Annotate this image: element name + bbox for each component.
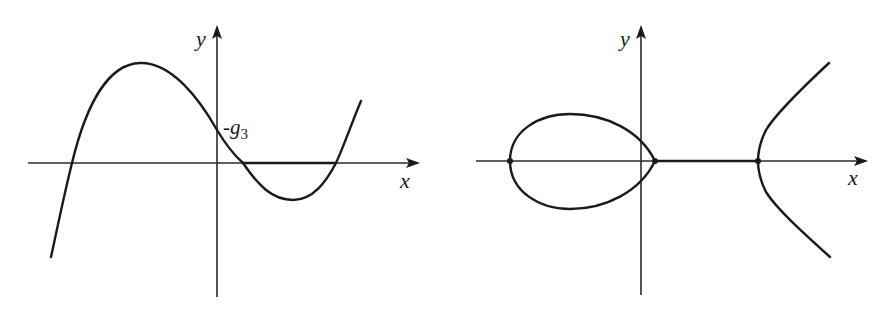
left-panel — [28, 27, 418, 297]
left-y-axis-label: y — [196, 28, 206, 50]
figure: y x -g3 y x — [0, 0, 892, 324]
left-x-axis-label: x — [400, 170, 410, 192]
y-intercept-subscript: 3 — [241, 126, 249, 142]
right-panel — [476, 27, 866, 295]
diagram-canvas — [0, 0, 892, 324]
root-dot-2 — [652, 158, 658, 164]
y-intercept-text: -g — [223, 115, 241, 139]
root-dot-3 — [755, 158, 761, 164]
y-intercept-label: -g3 — [223, 117, 248, 142]
right-x-axis-label: x — [848, 167, 858, 189]
cubic-curve — [51, 63, 361, 257]
root-dot-1 — [507, 158, 513, 164]
right-y-axis-label: y — [620, 28, 630, 50]
unbounded-branch — [758, 63, 830, 257]
